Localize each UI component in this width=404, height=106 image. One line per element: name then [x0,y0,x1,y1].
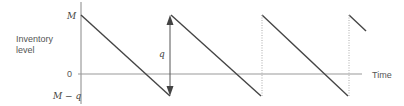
depletion-line-4 [349,15,366,31]
depletion-line-3 [262,15,348,96]
inventory-diagram: Inventory level M 0 M − q Time q [0,0,404,106]
y-axis-label-line2: level [16,45,35,55]
y-tick-M-minus-q: M − q [52,91,81,101]
y-tick-M: M [66,11,77,21]
depletion-line-1 [81,15,170,96]
x-axis-label: Time [372,70,392,80]
y-axis-label-line1: Inventory [16,34,54,44]
q-label: q [159,49,165,59]
q-arrow [167,15,174,96]
y-tick-zero: 0 [67,69,72,79]
depletion-line-2 [171,15,261,96]
